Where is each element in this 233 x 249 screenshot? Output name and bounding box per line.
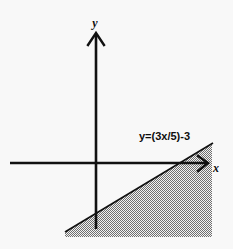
shaded-region [65,144,212,237]
equation-label: y=(3x/5)-3 [139,130,190,142]
graph-figure: y x y=(3x/5)-3 [0,0,233,249]
y-axis-label: y [90,16,98,30]
x-axis-label: x [212,161,219,175]
graph-canvas: y x y=(3x/5)-3 [0,0,233,249]
